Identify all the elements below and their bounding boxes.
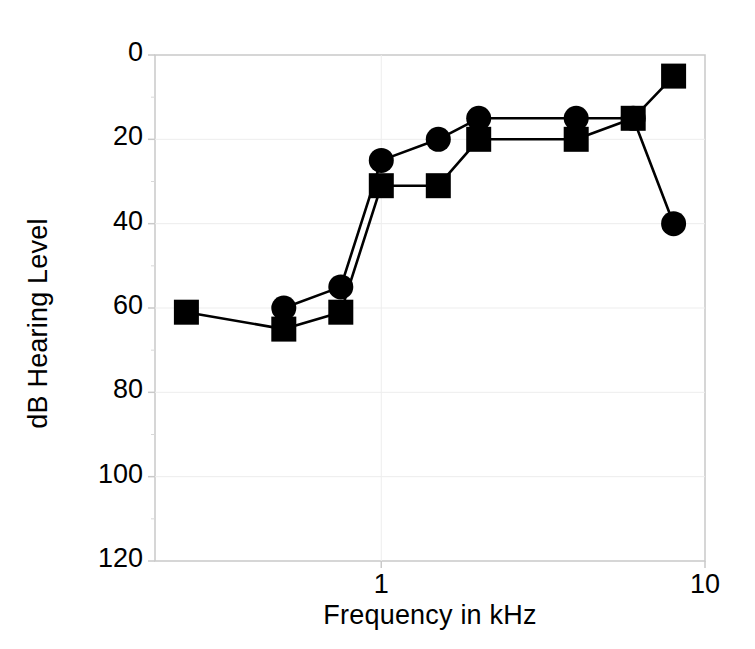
y-tick-label: 0 — [83, 37, 143, 68]
y-tick-label: 120 — [83, 543, 143, 574]
data-point-square — [328, 300, 353, 325]
y-axis-title: dB Hearing Level — [23, 174, 54, 474]
x-tick-label: 10 — [675, 569, 735, 600]
data-point-square — [369, 173, 394, 198]
data-point-square — [661, 64, 686, 89]
data-point-square — [174, 300, 199, 325]
data-point-square — [426, 173, 451, 198]
audiogram-figure: 020406080100120 110 dB Hearing Level Fre… — [0, 0, 755, 649]
data-point-square — [466, 127, 491, 152]
y-tick-label: 80 — [83, 374, 143, 405]
data-point-circle — [661, 211, 686, 236]
y-tick-label: 100 — [83, 459, 143, 490]
data-point-circle — [369, 148, 394, 173]
data-point-circle — [328, 274, 353, 299]
data-point-square — [271, 317, 296, 342]
y-tick-label: 20 — [83, 121, 143, 152]
x-axis-title: Frequency in kHz — [155, 600, 705, 631]
data-point-square — [564, 127, 589, 152]
x-tick-label: 1 — [351, 569, 411, 600]
data-point-square — [621, 106, 646, 131]
y-tick-label: 40 — [83, 206, 143, 237]
y-tick-label: 60 — [83, 290, 143, 321]
data-point-circle — [426, 127, 451, 152]
